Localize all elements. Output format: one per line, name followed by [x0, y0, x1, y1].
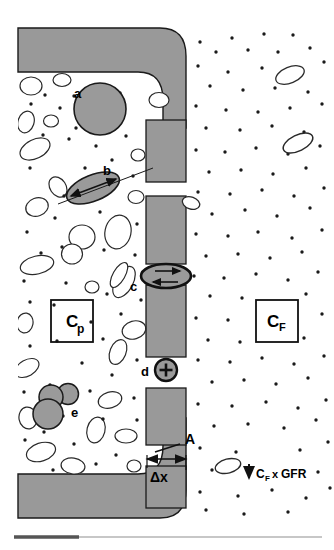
solute-dot: [194, 104, 197, 107]
solute-dot: [316, 270, 319, 273]
solute-dot: [196, 64, 199, 67]
label-c: c: [130, 279, 137, 294]
filtration-barrier-diagram: C p C F a b c d e A Δx C F x GFR: [0, 0, 334, 550]
solute-dot: [206, 338, 209, 341]
solute-dot: [110, 373, 113, 376]
solute-dot: [286, 278, 289, 281]
solute-dot: [196, 402, 199, 405]
solute-dot: [292, 194, 295, 197]
filtrate-ellipse: [280, 129, 316, 157]
solute-dot: [254, 272, 257, 275]
solute-dot: [42, 430, 45, 433]
solute-dot: [239, 168, 242, 171]
solute-dot: [270, 488, 273, 491]
solute-dot: [314, 418, 317, 421]
flux-annotation-group: C F x GFR: [256, 467, 307, 483]
flux-term: GFR: [281, 467, 307, 481]
solute-dot: [194, 232, 197, 235]
solute-dot: [320, 312, 323, 315]
particle-d-group: [155, 359, 177, 381]
solute-dot: [204, 254, 207, 257]
solute-dot: [274, 382, 277, 385]
solute-dot: [204, 508, 207, 511]
solute-dot: [308, 206, 311, 209]
plasma-ellipse: [120, 318, 148, 342]
solute-dot: [94, 462, 97, 465]
solute-dot: [230, 36, 233, 39]
filtrate-dots-group: [192, 32, 331, 515]
plasma-ellipse: [12, 355, 43, 382]
solute-dot: [254, 146, 257, 149]
solute-dot: [198, 490, 201, 493]
filtrate-concentration-box-group: C F: [256, 300, 298, 342]
solute-dot: [28, 344, 31, 347]
solute-dot: [271, 172, 274, 175]
solute-dot: [28, 300, 31, 303]
solute-dot: [214, 50, 217, 53]
solute-dot: [101, 337, 104, 340]
plasma-ellipse: [44, 115, 59, 127]
plasma-ellipse: [18, 252, 55, 277]
solute-dot: [320, 228, 323, 231]
solute-dot: [198, 40, 201, 43]
plasma-ellipse: [96, 389, 123, 411]
solute-dot: [241, 88, 244, 91]
solute-dot: [290, 236, 293, 239]
solute-dot: [194, 148, 197, 151]
solute-dot: [132, 396, 135, 399]
label-b: b: [103, 163, 111, 178]
plasma-ellipse: [24, 439, 58, 465]
plasma-ellipse: [53, 74, 71, 87]
filtrate-ellipse: [214, 456, 243, 476]
plasma-ellipse: [16, 133, 53, 164]
plasma-concentration-subscript: p: [77, 322, 84, 336]
solute-dot: [53, 216, 56, 219]
solute-dot: [207, 170, 210, 173]
solute-dot: [324, 398, 327, 401]
plasma-ellipse: [106, 337, 131, 367]
plasma-ellipse: [62, 244, 83, 264]
label-d: d: [141, 364, 149, 379]
solute-dot: [246, 48, 249, 51]
solute-dot: [39, 251, 42, 254]
solute-dot: [135, 222, 138, 225]
plasma-ellipse: [115, 429, 137, 443]
solute-dot: [304, 496, 307, 499]
solute-dot: [322, 60, 325, 63]
plasma-ellipse: [15, 312, 34, 334]
label-thickness: Δx: [150, 469, 168, 485]
solute-dot: [52, 303, 55, 306]
solute-dot: [260, 356, 263, 359]
solute-dot: [196, 190, 199, 193]
filtrate-compartment: [180, 32, 331, 515]
plasma-ellipse: [60, 456, 86, 475]
solute-dot: [320, 102, 323, 105]
plasma-ellipse: [102, 213, 135, 252]
solute-dot: [22, 279, 25, 282]
solute-dot: [98, 210, 101, 213]
solute-dot: [238, 128, 241, 131]
label-area: A: [185, 431, 195, 447]
plasma-ellipse: [85, 281, 99, 293]
solute-dot: [226, 70, 229, 73]
solute-dot: [236, 252, 239, 255]
solute-dot: [226, 318, 229, 321]
solute-dot: [273, 86, 276, 89]
solute-dot: [22, 390, 25, 393]
particle-a-large-cell: [74, 83, 126, 135]
filtrate-concentration-subscript: F: [279, 321, 286, 333]
solute-dot: [242, 378, 245, 381]
solute-dot: [105, 292, 108, 295]
solute-dot: [224, 108, 227, 111]
solute-dot: [25, 230, 28, 233]
solute-dot: [256, 110, 259, 113]
solute-dot: [194, 316, 197, 319]
solute-dot: [210, 212, 213, 215]
label-e: e: [71, 405, 78, 420]
plasma-ellipse: [131, 149, 145, 161]
solute-dot: [114, 453, 117, 456]
solute-dot: [322, 186, 325, 189]
solute-dot: [208, 294, 211, 297]
solute-dot: [308, 46, 311, 49]
solute-dot: [228, 360, 231, 363]
